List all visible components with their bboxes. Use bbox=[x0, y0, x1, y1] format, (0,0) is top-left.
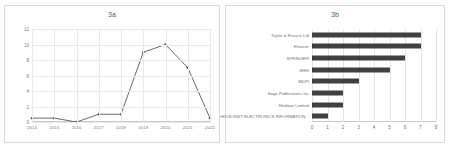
y-axis-tick-label: 4 bbox=[26, 89, 29, 94]
chart-panel-3a: 3a 0146810122014201520162017201820192020… bbox=[4, 5, 220, 143]
y-axis-tick-label: 12 bbox=[24, 27, 29, 32]
bar bbox=[312, 114, 328, 119]
y-axis-tick-label: 1 bbox=[26, 104, 29, 109]
category-label: Elsevier bbox=[294, 44, 309, 49]
x-axis-tick-label: 2017 bbox=[94, 125, 104, 130]
x-gridline bbox=[188, 29, 189, 122]
x-gridline bbox=[436, 29, 437, 122]
x-axis-tick-label: 6 bbox=[404, 125, 407, 130]
bar-row: IEEE bbox=[312, 64, 436, 76]
category-label: Hindawi Limited bbox=[279, 102, 309, 107]
bar-row: IEICE-INST ELECTRONICS INFORMATION... bbox=[312, 110, 436, 122]
x-axis-tick-label: 2019 bbox=[138, 125, 148, 130]
y-axis-tick-label: 8 bbox=[26, 58, 29, 63]
bar-row: Taylor & Francis Ltd bbox=[312, 29, 436, 41]
bar bbox=[312, 90, 343, 95]
chart-title-3b: 3b bbox=[226, 11, 444, 18]
x-gridline bbox=[210, 29, 211, 122]
x-axis-tick-label: 8 bbox=[435, 125, 438, 130]
x-axis-tick-label: 2021 bbox=[183, 125, 193, 130]
category-label: IEICE-INST ELECTRONICS INFORMATION... bbox=[220, 114, 309, 119]
x-axis-tick-label: 2020 bbox=[161, 125, 171, 130]
x-axis-tick-label: 2 bbox=[342, 125, 345, 130]
y-axis-tick-label: 6 bbox=[26, 73, 29, 78]
bar-row: MDPI bbox=[312, 76, 436, 88]
figure-container: 3a 0146810122014201520162017201820192020… bbox=[0, 0, 449, 148]
x-axis-tick-label: 2022 bbox=[205, 125, 215, 130]
x-axis-tick-label: 2015 bbox=[49, 125, 59, 130]
x-gridline bbox=[32, 29, 33, 122]
x-axis-tick-label: 2018 bbox=[116, 125, 126, 130]
x-axis-tick-label: 0 bbox=[311, 125, 314, 130]
chart-title-3a: 3a bbox=[5, 11, 219, 18]
bar bbox=[312, 44, 421, 49]
x-gridline bbox=[143, 29, 144, 122]
x-axis-tick-label: 1 bbox=[326, 125, 329, 130]
x-gridline bbox=[99, 29, 100, 122]
category-label: IEEE bbox=[299, 67, 309, 72]
category-label: MDPI bbox=[298, 79, 309, 84]
x-axis-tick-label: 3 bbox=[357, 125, 360, 130]
bar-chart-plot-area: 012345678Taylor & Francis LtdElsevierSPR… bbox=[312, 29, 436, 122]
category-label: Sage Publications Inc bbox=[268, 90, 309, 95]
x-gridline bbox=[54, 29, 55, 122]
y-gridline bbox=[32, 122, 210, 123]
x-gridline bbox=[121, 29, 122, 122]
bar bbox=[312, 102, 343, 107]
chart-panel-3b: 3b 012345678Taylor & Francis LtdElsevier… bbox=[225, 5, 445, 143]
bar-row: SPRINGER bbox=[312, 52, 436, 64]
bar bbox=[312, 32, 421, 37]
x-gridline bbox=[77, 29, 78, 122]
x-axis-tick-label: 4 bbox=[373, 125, 376, 130]
category-label: Taylor & Francis Ltd bbox=[271, 32, 309, 37]
x-gridline bbox=[166, 29, 167, 122]
x-axis-tick-label: 2016 bbox=[72, 125, 82, 130]
x-axis-tick-label: 7 bbox=[419, 125, 422, 130]
bar-row: Sage Publications Inc bbox=[312, 87, 436, 99]
bar-row: Hindawi Limited bbox=[312, 99, 436, 111]
y-axis-tick-label: 0 bbox=[26, 120, 29, 125]
bar bbox=[312, 56, 405, 61]
category-label: SPRINGER bbox=[287, 56, 309, 61]
y-axis-tick-label: 10 bbox=[24, 42, 29, 47]
bar bbox=[312, 79, 359, 84]
bar bbox=[312, 67, 390, 72]
line-chart-plot-area: 0146810122014201520162017201820192020202… bbox=[32, 29, 210, 122]
bar-row: Elsevier bbox=[312, 41, 436, 53]
x-axis-tick-label: 2014 bbox=[27, 125, 37, 130]
x-axis-tick-label: 5 bbox=[388, 125, 391, 130]
